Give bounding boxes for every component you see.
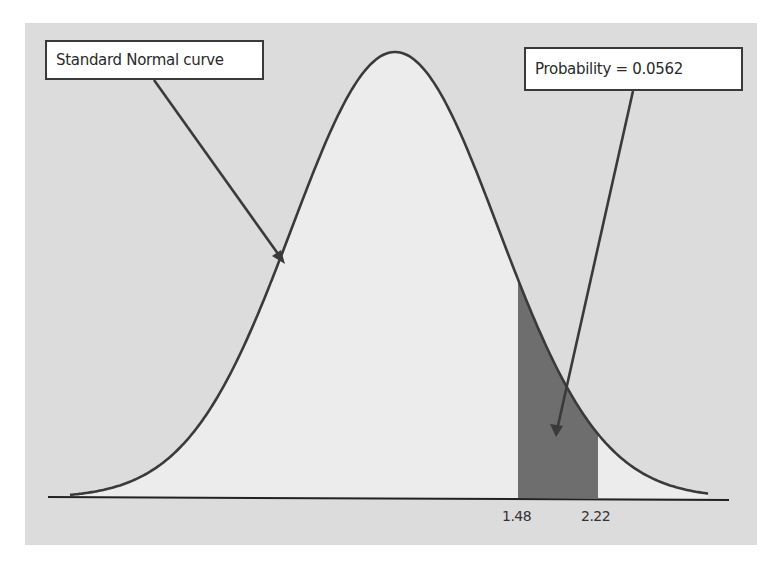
x-tick-label: 2.22: [581, 508, 610, 524]
standard-normal-curve-label: Standard Normal curve: [45, 40, 264, 80]
area-under-curve: [70, 52, 708, 498]
x-tick-label: 1.48: [502, 508, 531, 524]
curve-label-arrow: [154, 80, 285, 264]
probability-label: Probability = 0.0562: [524, 47, 743, 91]
